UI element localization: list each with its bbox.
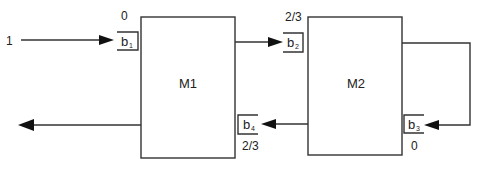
block-m1-label: M1 [179, 76, 197, 91]
arrowhead-icon [424, 120, 439, 130]
flow-diagram: 1 M1 b 1 0 b 2 2/3 M2 b 3 0 [0, 0, 494, 169]
buffer-b3: b 3 0 [404, 115, 424, 153]
buffer-b1-subscript: 1 [129, 42, 133, 49]
buffer-b2-value: 2/3 [285, 10, 302, 24]
buffer-b1: b 1 0 [117, 9, 138, 50]
edge-input-to-b1 [21, 35, 114, 45]
arrowhead-icon [99, 35, 114, 45]
input-label: 1 [6, 34, 13, 48]
buffer-b4: b 4 2/3 [238, 115, 259, 153]
block-m2-label: M2 [347, 76, 365, 91]
buffer-b1-value: 0 [121, 9, 128, 23]
buffer-b4-value: 2/3 [242, 139, 259, 153]
edge-m1-to-b2 [235, 37, 283, 47]
buffer-b3-label: b [408, 117, 415, 132]
edge-m1-to-output [18, 119, 141, 131]
buffer-b4-label: b [243, 117, 250, 132]
block-m1: M1 [141, 17, 235, 158]
buffer-b2-label: b [287, 35, 294, 50]
buffer-b3-value: 0 [411, 139, 418, 153]
arrowhead-icon [18, 119, 34, 131]
buffer-b2-subscript: 2 [295, 43, 299, 50]
arrowhead-icon [268, 37, 283, 47]
buffer-b4-subscript: 4 [251, 125, 255, 132]
arrowhead-icon [261, 119, 276, 129]
block-m2: M2 [308, 17, 402, 155]
buffer-b2: b 2 2/3 [283, 10, 303, 52]
buffer-b1-label: b [121, 34, 128, 49]
buffer-b3-subscript: 3 [416, 125, 420, 132]
edge-m2-to-b4 [261, 119, 308, 129]
